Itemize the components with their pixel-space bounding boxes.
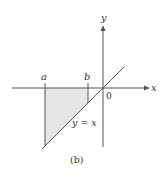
y-axis-label: y (100, 12, 107, 23)
diagram-figure: a b 0 x y y = x (b) (0, 0, 160, 178)
equation-label: y = x (71, 117, 97, 128)
origin-label: 0 (106, 91, 112, 101)
x-axis-arrow-icon (144, 86, 150, 91)
point-b-label: b (84, 71, 90, 82)
y-axis-arrow-icon (101, 25, 106, 31)
point-a-label: a (41, 71, 47, 82)
x-axis-label: x (151, 82, 157, 93)
figure-caption: (b) (70, 154, 84, 165)
